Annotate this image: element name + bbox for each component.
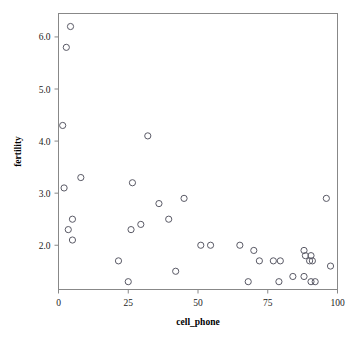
data-point — [245, 279, 251, 285]
data-point — [60, 122, 66, 128]
data-point — [65, 227, 71, 233]
x-tick-label: 100 — [330, 298, 345, 308]
data-point — [256, 258, 262, 264]
data-point — [128, 227, 134, 233]
data-point — [323, 195, 329, 201]
y-tick-label: 5.0 — [39, 85, 51, 95]
data-point — [63, 44, 69, 50]
y-axis-label: fertility — [13, 136, 23, 167]
data-point — [181, 195, 187, 201]
data-point — [251, 247, 257, 253]
y-tick-label: 3.0 — [39, 189, 51, 199]
data-point — [61, 185, 67, 191]
data-point — [138, 221, 144, 227]
data-point — [173, 268, 179, 274]
data-point — [277, 258, 283, 264]
x-tick-label: 75 — [263, 298, 273, 308]
data-point — [78, 174, 84, 180]
data-point — [115, 258, 121, 264]
data-point — [198, 242, 204, 248]
data-point — [290, 273, 296, 279]
data-point — [129, 180, 135, 186]
x-tick-label: 25 — [124, 298, 134, 308]
data-point — [301, 273, 307, 279]
x-tick-label: 0 — [56, 298, 61, 308]
plot-canvas: 02550751002.03.04.05.06.0cell_phoneferti… — [0, 0, 360, 341]
plot-frame — [59, 14, 338, 290]
data-point — [312, 279, 318, 285]
data-point — [237, 242, 243, 248]
data-point — [69, 216, 75, 222]
y-tick-label: 4.0 — [39, 137, 51, 147]
data-point — [156, 200, 162, 206]
y-tick-label: 6.0 — [39, 32, 51, 42]
y-tick-label: 2.0 — [39, 241, 51, 251]
x-tick-label: 50 — [193, 298, 203, 308]
data-point — [327, 263, 333, 269]
data-point — [207, 242, 213, 248]
data-point — [69, 237, 75, 243]
data-points-group — [60, 23, 334, 284]
data-point — [67, 23, 73, 29]
x-axis-label: cell_phone — [176, 317, 219, 327]
data-point — [276, 279, 282, 285]
scatter-chart: 02550751002.03.04.05.06.0cell_phoneferti… — [0, 0, 360, 341]
data-point — [145, 133, 151, 139]
data-point — [270, 258, 276, 264]
data-point — [125, 279, 131, 285]
data-point — [166, 216, 172, 222]
